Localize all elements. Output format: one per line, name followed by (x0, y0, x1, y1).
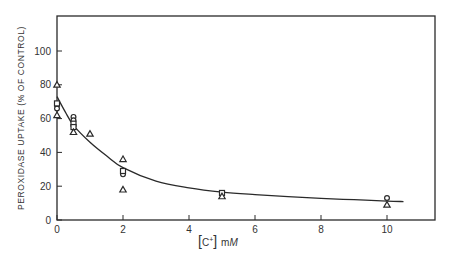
square-marker (121, 168, 126, 173)
triangle-marker (87, 131, 93, 137)
x-label-bracket-close: ] (213, 233, 217, 249)
circle-marker (55, 106, 60, 111)
y-tick-label: 0 (45, 215, 51, 226)
plot-border (57, 16, 435, 220)
chart: 020406080100 0246810 PEROXIDASE UPTAKE (… (0, 0, 453, 260)
x-tick-label: 0 (54, 224, 60, 235)
x-tick-label: 8 (318, 224, 324, 235)
x-tick-label: 10 (381, 224, 393, 235)
y-tick-label: 40 (40, 147, 52, 158)
plot-frame (57, 16, 435, 220)
y-tick-label: 60 (40, 113, 52, 124)
triangle-marker (54, 112, 60, 118)
fit-line (57, 97, 404, 202)
x-label-unit-prefix: m (221, 237, 229, 248)
y-tick-label: 100 (34, 46, 51, 57)
x-tick-label: 4 (186, 224, 192, 235)
x-tick-label: 6 (252, 224, 258, 235)
y-tick-label: 20 (40, 181, 52, 192)
data-points (54, 82, 390, 208)
x-axis-label: [C+]mM (198, 233, 238, 249)
x-label-unit: M (229, 237, 238, 248)
triangle-marker (384, 202, 390, 208)
y-axis-ticks: 020406080100 (34, 46, 62, 226)
triangle-marker (120, 186, 126, 192)
triangle-marker (54, 82, 60, 88)
x-axis-ticks: 0246810 (54, 215, 393, 235)
svg-text:[C+]mM: [C+]mM (198, 233, 238, 249)
circle-marker (385, 196, 390, 201)
y-tick-label: 80 (40, 79, 52, 90)
y-axis-label: PEROXIDASE UPTAKE (% OF CONTROL) (16, 26, 26, 210)
triangle-marker (120, 156, 126, 162)
x-label-species: C (202, 237, 209, 248)
x-tick-label: 2 (120, 224, 126, 235)
fit-curve (57, 97, 404, 202)
square-marker (55, 101, 60, 106)
